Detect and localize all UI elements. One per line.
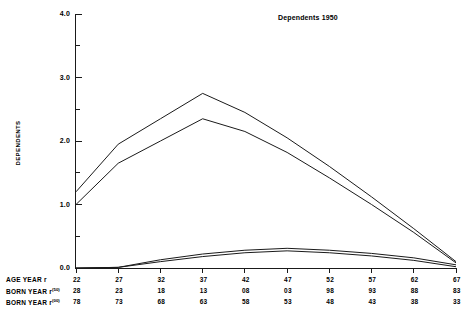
y-major-tick (76, 268, 82, 269)
x-axis-cell: 62 (411, 276, 437, 283)
series-line-upper-outer (76, 93, 456, 261)
x-axis-cell: 48 (326, 298, 352, 305)
x-axis-cell: 57 (369, 276, 395, 283)
x-axis-cell: 28 (73, 287, 99, 294)
y-minor-tick (76, 172, 80, 173)
y-major-tick (76, 141, 82, 142)
x-axis-cell: 33 (453, 298, 466, 305)
x-tick (160, 268, 161, 273)
x-axis-line (75, 268, 457, 269)
x-axis-cell: 58 (242, 298, 268, 305)
x-axis-cell: 52 (326, 276, 352, 283)
series-line-lower-inner (76, 251, 456, 268)
y-major-tick (76, 204, 82, 205)
x-tick (244, 268, 245, 273)
x-axis-row-label: AGE YEAR r (6, 276, 47, 283)
x-axis-cell: 27 (115, 276, 141, 283)
x-axis-cell: 93 (369, 287, 395, 294)
y-major-tick (76, 14, 82, 15)
x-axis-cell: 23 (115, 287, 141, 294)
x-axis-cell: 53 (284, 298, 310, 305)
y-minor-tick (76, 45, 80, 46)
y-minor-tick (76, 109, 80, 110)
x-axis-row-label: BORN YEAR r(50) (6, 287, 60, 295)
x-tick (287, 268, 288, 273)
series-line-upper-inner (76, 119, 456, 263)
x-axis-cell: 18 (157, 287, 183, 294)
x-axis-cell: 47 (284, 276, 310, 283)
x-tick (202, 268, 203, 273)
x-axis-cell: 38 (411, 298, 437, 305)
x-axis-cell: 03 (284, 287, 310, 294)
x-axis-cell: 13 (200, 287, 226, 294)
x-tick (76, 268, 77, 273)
x-tick (371, 268, 372, 273)
x-axis-cell: 98 (326, 287, 352, 294)
chart-figure: Dependents 1950 DEPENDENTS 0.01.02.03.04… (0, 0, 466, 314)
y-tick-label: 1.0 (48, 201, 70, 208)
x-axis-row-label: BORN YEAR r(00) (6, 298, 60, 306)
x-axis-cell: 08 (242, 287, 268, 294)
x-axis-row-label-superscript: (00) (52, 298, 60, 303)
x-axis-row-label-superscript: (50) (52, 287, 60, 292)
y-tick-label: 4.0 (48, 10, 70, 17)
x-axis-cell: 43 (369, 298, 395, 305)
x-axis-cell: 42 (242, 276, 268, 283)
x-tick (456, 268, 457, 273)
y-tick-label: 3.0 (48, 74, 70, 81)
series-line-lower-outer (76, 248, 456, 268)
x-axis-cell: 32 (157, 276, 183, 283)
y-tick-label: 2.0 (48, 137, 70, 144)
chart-title: Dependents 1950 (278, 14, 338, 21)
x-axis-cell: 83 (453, 287, 466, 294)
x-axis-cell: 63 (200, 298, 226, 305)
y-tick-label: 0.0 (48, 264, 70, 271)
y-minor-tick (76, 236, 80, 237)
x-tick (118, 268, 119, 273)
x-axis-cell: 78 (73, 298, 99, 305)
x-axis-cell: 73 (115, 298, 141, 305)
x-tick (329, 268, 330, 273)
y-major-tick (76, 77, 82, 78)
x-axis-cell: 67 (453, 276, 466, 283)
x-axis-cell: 68 (157, 298, 183, 305)
x-axis-cell: 37 (200, 276, 226, 283)
x-tick (413, 268, 414, 273)
x-axis-cell: 88 (411, 287, 437, 294)
y-axis-line (75, 14, 76, 269)
x-axis-cell: 22 (73, 276, 99, 283)
y-axis-title: DEPENDENTS (15, 103, 21, 183)
